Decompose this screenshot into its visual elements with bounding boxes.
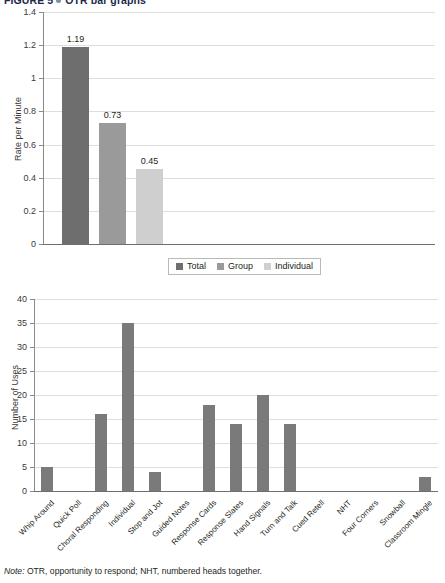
y-axis-tick-label: 35 bbox=[0, 318, 27, 328]
bar-hand-signals bbox=[257, 395, 269, 491]
chart-number-of-uses: Number of Uses0510152025303540Whip Aroun… bbox=[0, 0, 445, 280]
gridline bbox=[34, 395, 438, 396]
bar-response-slates bbox=[230, 424, 242, 491]
y-axis-tick-label: 15 bbox=[0, 414, 27, 424]
bar-stop-and-jot bbox=[149, 472, 161, 491]
note-prefix: Note: bbox=[4, 566, 25, 576]
x-axis-line bbox=[34, 491, 438, 492]
figure-note: Note: OTR, opportunity to respond; NHT, … bbox=[4, 566, 262, 576]
bar-choral-responding bbox=[95, 414, 107, 491]
y-axis-line bbox=[34, 299, 35, 491]
y-axis-tick-label: 10 bbox=[0, 438, 27, 448]
bar-classroom-mingle bbox=[419, 477, 431, 491]
y-axis-tick-label: 25 bbox=[0, 366, 27, 376]
y-axis-tick-label: 40 bbox=[0, 294, 27, 304]
y-axis-tick-label: 20 bbox=[0, 390, 27, 400]
gridline bbox=[34, 371, 438, 372]
y-axis-tick-label: 0 bbox=[0, 486, 27, 496]
bar-individual bbox=[122, 323, 134, 491]
gridline bbox=[34, 323, 438, 324]
bar-response-cards bbox=[203, 405, 215, 491]
gridline bbox=[34, 299, 438, 300]
gridline bbox=[34, 347, 438, 348]
y-axis-tick-label: 30 bbox=[0, 342, 27, 352]
note-text: OTR, opportunity to respond; NHT, number… bbox=[25, 566, 262, 576]
y-axis-tick-label: 5 bbox=[0, 462, 27, 472]
bar-turn-and-talk bbox=[284, 424, 296, 491]
bar-whip-around bbox=[41, 467, 53, 491]
